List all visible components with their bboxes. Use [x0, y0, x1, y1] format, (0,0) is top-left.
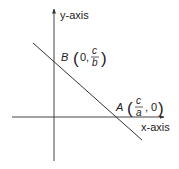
- point-a-x-numerator: c: [136, 95, 141, 106]
- point-a-open-paren: (: [127, 99, 133, 118]
- point-b-y-denominator: b: [92, 57, 98, 68]
- point-a-name: A: [115, 101, 123, 113]
- point-b-x: 0,: [80, 51, 89, 63]
- x-axis-label: x-axis: [141, 121, 170, 133]
- point-a-y: , 0: [145, 101, 157, 113]
- point-b-label: B ( 0, c b ): [61, 45, 107, 68]
- point-b-y-numerator: c: [92, 45, 97, 56]
- y-axis-label: y-axis: [60, 9, 89, 21]
- point-b-open-paren: (: [73, 49, 79, 68]
- point-b-close-paren: ): [101, 49, 107, 68]
- point-a-label: A ( c a , 0 ): [115, 95, 164, 118]
- point-b-name: B: [61, 51, 68, 63]
- point-a-close-paren: ): [158, 99, 164, 118]
- coordinate-diagram: y-axis x-axis B ( 0, c b ) A ( c a , 0 ): [0, 0, 179, 169]
- point-a-x-denominator: a: [136, 107, 142, 118]
